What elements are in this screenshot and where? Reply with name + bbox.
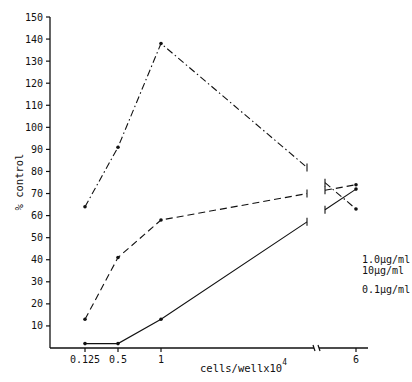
- y-tick-label: 80: [31, 166, 43, 177]
- y-tick-label: 40: [31, 254, 43, 265]
- series-label: 0.1µg/ml: [362, 284, 410, 295]
- series-label: 10µg/ml: [362, 265, 404, 276]
- y-tick-label: 50: [31, 232, 43, 243]
- data-point: [159, 42, 163, 46]
- line-chart: 1020304050607080901001101201301401500.12…: [0, 0, 412, 382]
- series-labels: 0.1µg/ml1.0µg/ml10µg/ml: [362, 254, 410, 295]
- y-tick-label: 150: [25, 12, 43, 23]
- y-tick-label: 60: [31, 210, 43, 221]
- series-line-0: [85, 43, 307, 206]
- x-tick-label: 1: [158, 354, 164, 365]
- data-point: [159, 318, 163, 322]
- x-tick-label: 0.5: [109, 354, 127, 365]
- x-tick-label: 0.125: [70, 354, 100, 365]
- data-point: [159, 218, 163, 222]
- y-tick-label: 110: [25, 100, 43, 111]
- data-point: [116, 145, 120, 149]
- y-tick-label: 120: [25, 78, 43, 89]
- y-tick-label: 10: [31, 320, 43, 331]
- series-line-segment-1: [325, 185, 356, 191]
- axes: 1020304050607080901001101201301401500.12…: [25, 12, 368, 366]
- x-axis-label-exponent: 4: [282, 358, 287, 367]
- series-line-segment-0: [325, 183, 356, 209]
- data-point: [83, 342, 87, 346]
- data-point: [354, 187, 358, 191]
- y-tick-label: 70: [31, 188, 43, 199]
- x-axis-label: cells/wellx104: [200, 358, 287, 374]
- data-point: [354, 207, 358, 211]
- data-point: [83, 318, 87, 322]
- y-tick-label: 100: [25, 122, 43, 133]
- y-tick-label: 140: [25, 34, 43, 45]
- y-tick-label: 30: [31, 276, 43, 287]
- series-line-segment-2: [325, 189, 356, 210]
- series-line-2: [85, 222, 307, 344]
- y-tick-label: 20: [31, 298, 43, 309]
- series-lines: [83, 42, 358, 346]
- data-point: [354, 183, 358, 187]
- series-label: 1.0µg/ml: [362, 254, 410, 265]
- data-point: [116, 256, 120, 260]
- x-axis-label-text: cells/wellx10: [200, 362, 282, 374]
- y-tick-label: 90: [31, 144, 43, 155]
- data-point: [83, 205, 87, 209]
- data-point: [116, 342, 120, 346]
- x-tick-label: 6: [353, 354, 359, 365]
- y-tick-label: 130: [25, 56, 43, 67]
- y-axis-label: % control: [13, 154, 25, 211]
